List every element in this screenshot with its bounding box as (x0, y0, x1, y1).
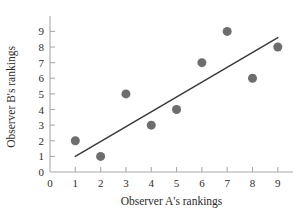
y-tick-label: 2 (39, 135, 45, 147)
y-tick-label: 6 (39, 72, 45, 84)
y-axis-tick-labels: 0123456789 (39, 25, 45, 178)
y-tick-label: 5 (39, 88, 45, 100)
y-tick-label: 4 (39, 104, 45, 116)
x-tick-label: 2 (98, 177, 104, 189)
y-axis-title: Observer B's rankings (5, 46, 18, 148)
y-tick-label: 8 (39, 41, 45, 53)
data-point (121, 89, 130, 98)
x-axis-tick-labels: 0123456789 (47, 177, 281, 189)
x-tick-label: 1 (73, 177, 79, 189)
data-point (96, 152, 105, 161)
data-point (197, 58, 206, 67)
x-tick-label: 7 (224, 177, 230, 189)
y-tick-label: 3 (39, 119, 45, 131)
x-tick-label: 6 (199, 177, 205, 189)
x-tick-label: 0 (47, 177, 53, 189)
x-axis-title: Observer A's rankings (121, 195, 223, 208)
x-axis-ticks (75, 167, 278, 172)
data-point (223, 27, 232, 36)
data-point (71, 136, 80, 145)
data-point (147, 121, 156, 130)
x-tick-label: 3 (123, 177, 129, 189)
data-point (248, 74, 257, 83)
data-point (172, 105, 181, 114)
y-tick-label: 0 (39, 166, 45, 178)
y-axis: 0123456789 (39, 16, 56, 178)
y-axis-ticks (50, 31, 55, 156)
x-axis: 0123456789 (47, 167, 293, 189)
y-tick-label: 9 (39, 25, 45, 37)
x-tick-label: 8 (250, 177, 256, 189)
y-tick-label: 1 (39, 150, 45, 162)
data-point (273, 43, 282, 52)
chart-canvas: 0123456789 0123456789 Observer A's ranki… (0, 0, 305, 214)
scatter-plot-figure: 0123456789 0123456789 Observer A's ranki… (0, 0, 305, 214)
regression-trend-line (75, 38, 278, 157)
x-tick-label: 4 (149, 177, 155, 189)
x-tick-label: 9 (275, 177, 281, 189)
x-tick-label: 5 (174, 177, 180, 189)
y-tick-label: 7 (39, 57, 45, 69)
